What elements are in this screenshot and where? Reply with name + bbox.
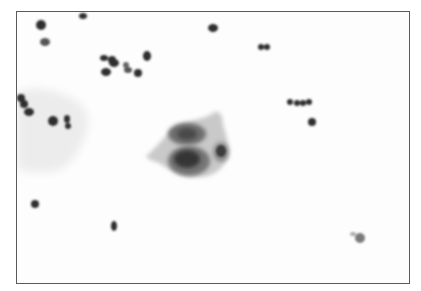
faint-squamous-cell: [17, 89, 88, 173]
epithelial-cell-cluster: [146, 112, 229, 178]
micrograph-image: [17, 12, 409, 283]
micrograph-frame: [16, 11, 410, 284]
